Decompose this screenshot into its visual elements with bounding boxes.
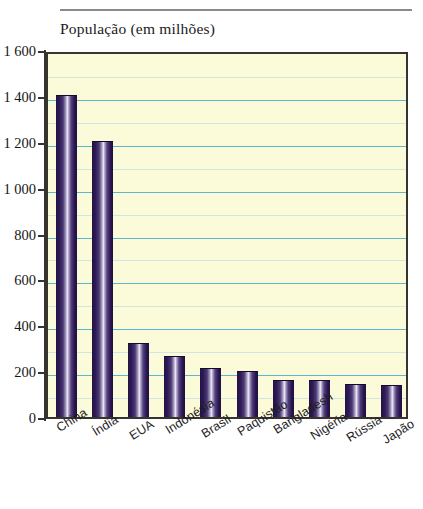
y-axis-tick-label: 800 — [0, 227, 36, 244]
bar — [381, 385, 402, 417]
x-axis-category-label: EUA — [127, 417, 156, 443]
bar — [92, 141, 113, 417]
bar — [164, 356, 185, 417]
y-axis-tick — [38, 51, 46, 53]
chart-title: População (em milhões) — [60, 20, 215, 38]
y-axis-tick — [38, 326, 46, 328]
y-axis-tick-label: 400 — [0, 318, 36, 335]
bars-layer — [48, 54, 406, 417]
top-horizontal-rule — [60, 9, 412, 11]
y-axis-tick-label: 1 200 — [0, 135, 36, 152]
y-axis-tick — [38, 280, 46, 282]
bar — [237, 371, 258, 417]
plot-area — [46, 52, 408, 419]
y-axis-tick — [38, 235, 46, 237]
y-axis-tick — [38, 189, 46, 191]
bar — [128, 343, 149, 417]
y-axis-tick — [38, 372, 46, 374]
y-axis-tick-label: 1 400 — [0, 89, 36, 106]
y-axis-tick-label: 200 — [0, 364, 36, 381]
bar — [56, 95, 77, 417]
y-axis-tick-label: 600 — [0, 272, 36, 289]
x-axis-category-label: Japão — [380, 417, 417, 447]
y-axis-tick — [38, 418, 46, 420]
y-axis-tick-label: 0 — [0, 410, 36, 427]
x-axis-category-labels: ChinaÍndiaEUAIndonésiaBrasilPaquistãoBan… — [46, 421, 408, 509]
y-axis-tick-label: 1 600 — [0, 43, 36, 60]
y-axis-tick — [38, 143, 46, 145]
y-axis-tick — [38, 97, 46, 99]
bar — [345, 384, 366, 417]
y-axis-tick-label: 1 000 — [0, 181, 36, 198]
